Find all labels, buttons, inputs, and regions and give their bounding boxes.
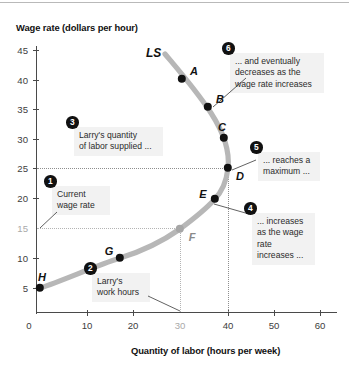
- callout-badge-1[interactable]: 1: [44, 175, 57, 188]
- callout-badge-6[interactable]: 6: [222, 42, 235, 55]
- callout-badge-2[interactable]: 2: [84, 262, 97, 275]
- labor-supply-chart: Wage rate (dollars per hour) Quantity of…: [0, 0, 349, 367]
- callout-badge-5[interactable]: 5: [250, 141, 263, 154]
- callout-badge-4[interactable]: 4: [244, 202, 257, 215]
- callout-badge-3[interactable]: 3: [66, 116, 79, 129]
